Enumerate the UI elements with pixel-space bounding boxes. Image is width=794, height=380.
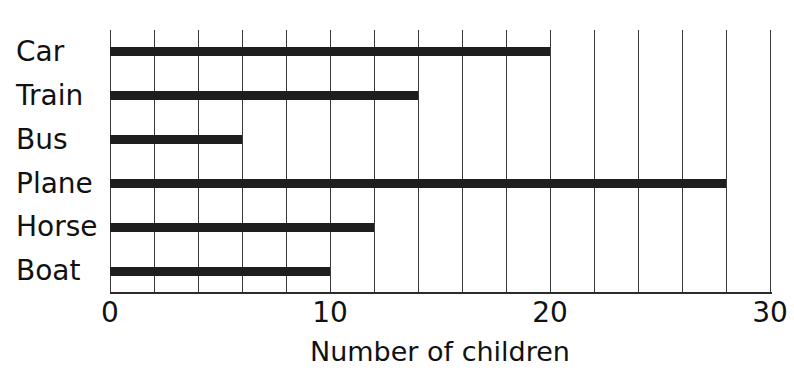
- plot-area: [110, 30, 770, 293]
- gridline: [418, 30, 419, 293]
- x-tick-label-30: 30: [752, 296, 788, 330]
- category-label-boat: Boat: [16, 249, 80, 293]
- gridline: [242, 30, 243, 293]
- gridline: [550, 30, 551, 293]
- bar: [110, 223, 374, 232]
- bar: [110, 47, 550, 56]
- gridline: [506, 30, 507, 293]
- x-axis-line: [110, 292, 772, 294]
- category-label-train: Train: [16, 74, 83, 118]
- chart-title-cropped: [0, 0, 794, 8]
- x-tick-label-10: 10: [312, 296, 348, 330]
- bar: [110, 91, 418, 100]
- gridline: [198, 30, 199, 293]
- bar: [110, 267, 330, 276]
- category-label-car: Car: [16, 30, 64, 74]
- category-label-bus: Bus: [16, 118, 68, 162]
- gridline: [770, 30, 771, 293]
- gridline: [374, 30, 375, 293]
- gridline: [682, 30, 683, 293]
- gridline: [110, 30, 111, 293]
- gridline: [330, 30, 331, 293]
- x-tick-label-0: 0: [101, 296, 119, 330]
- gridline: [154, 30, 155, 293]
- bar: [110, 179, 726, 188]
- gridline: [726, 30, 727, 293]
- x-axis-title: Number of children: [110, 336, 770, 367]
- gridline: [462, 30, 463, 293]
- category-label-horse: Horse: [16, 205, 98, 249]
- bar-chart: CarTrainBusPlaneHorseBoat 0102030 Number…: [0, 0, 794, 380]
- gridline: [594, 30, 595, 293]
- gridline: [286, 30, 287, 293]
- category-label-plane: Plane: [16, 162, 93, 206]
- bar: [110, 135, 242, 144]
- x-axis-tick-labels: 0102030: [0, 296, 794, 336]
- category-axis-labels: CarTrainBusPlaneHorseBoat: [0, 30, 104, 293]
- x-tick-label-20: 20: [532, 296, 568, 330]
- gridline: [638, 30, 639, 293]
